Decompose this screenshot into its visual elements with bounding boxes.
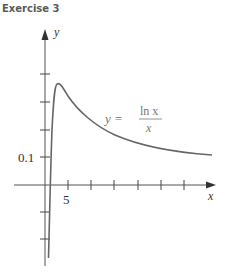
function-plot: y x 5 0.1 y = ln x x [0, 0, 227, 276]
curve-ln-x-over-x [49, 84, 213, 258]
x-axis-label: x [207, 189, 214, 203]
y-tick-label-0-1: 0.1 [18, 150, 34, 165]
function-numerator: ln x [140, 104, 158, 118]
x-axis-arrow-icon [206, 182, 216, 189]
x-axis [14, 180, 216, 190]
y-axis-arrow-icon [42, 29, 49, 40]
y-axis-label: y [53, 25, 60, 39]
function-denominator: x [145, 121, 152, 135]
x-tick-label-5: 5 [63, 192, 70, 207]
function-lhs: y = [103, 111, 123, 126]
function-annotation: y = ln x x [103, 104, 162, 135]
